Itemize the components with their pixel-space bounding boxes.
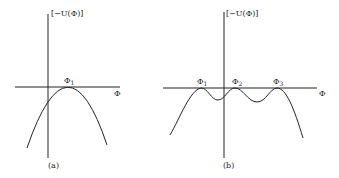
panel-b-phi2-label: Φ2: [232, 78, 242, 87]
panel-b-y-label: [−U(Φ)]: [226, 10, 259, 18]
panel-a-x-label: Φ: [114, 90, 121, 98]
panel-b-x-label: Φ: [319, 90, 326, 98]
panel-b-curve: [170, 88, 303, 138]
panel-b-phi1-label: Φ1: [197, 78, 207, 87]
panel-b-phi3-label: Φ3: [273, 78, 283, 87]
panel-b-caption: (b): [223, 162, 234, 170]
panel-a-y-label: [−U(Φ)]: [51, 10, 84, 18]
panel-a-curve: [27, 87, 107, 148]
panel-a-phi1-label: Φ1: [64, 77, 74, 86]
panel-a-caption: (a): [48, 162, 59, 170]
potential-diagram: [0, 0, 339, 178]
